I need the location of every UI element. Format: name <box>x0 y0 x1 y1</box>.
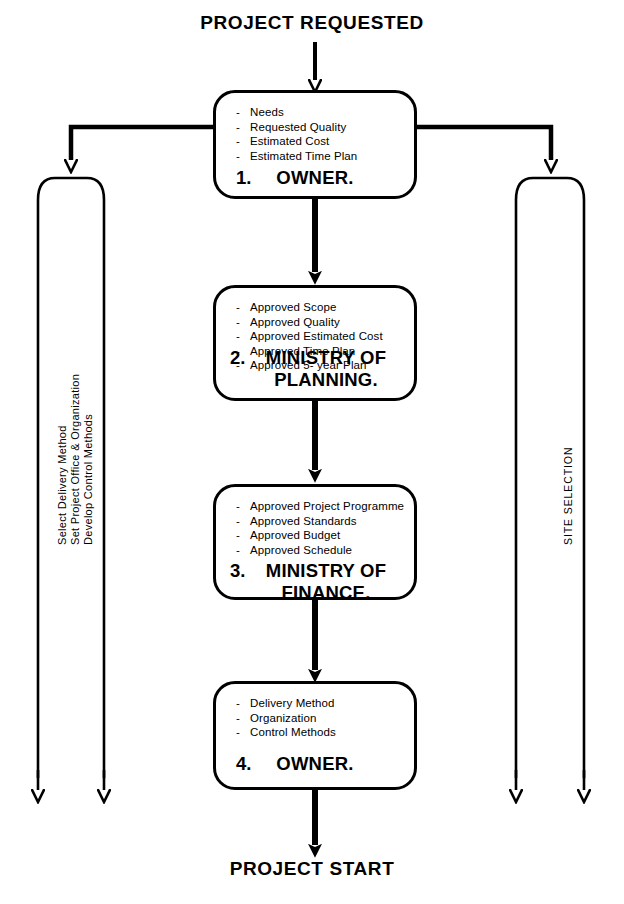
bullet-text: Needs <box>250 105 284 120</box>
bullet-marker: - <box>236 300 250 315</box>
bullet-text: Approved Schedule <box>250 543 352 558</box>
left-rail-label-select-delivery-method: Select Delivery Method <box>57 425 68 545</box>
bullet-marker: - <box>236 105 250 120</box>
node4-title-line1: OWNER. <box>216 753 414 775</box>
node3-title: MINISTRY OF FINANCE. <box>216 560 414 604</box>
bullet-text: Requested Quality <box>250 120 346 135</box>
bullet-text: Delivery Method <box>250 696 335 711</box>
node4-bullet-list: - Delivery Method - Organization - Contr… <box>236 696 406 740</box>
node3-title-line1: MINISTRY OF <box>238 560 414 582</box>
bullet-text: Approved Budget <box>250 528 340 543</box>
bullet-text: Approved Estimated Cost <box>250 329 383 344</box>
bullet-marker: - <box>236 149 250 164</box>
branch-line-left <box>71 127 213 160</box>
bullet-text: Approved Scope <box>250 300 336 315</box>
banner-project-requested: PROJECT REQUESTED <box>0 12 624 34</box>
bullet-marker: - <box>236 528 250 543</box>
list-item: - Approved Standards <box>236 514 406 529</box>
list-item: - Approved Scope <box>236 300 406 315</box>
list-item: - Approved Budget <box>236 528 406 543</box>
list-item: - Approved Schedule <box>236 543 406 558</box>
list-item: - Requested Quality <box>236 120 406 135</box>
list-item: - Delivery Method <box>236 696 406 711</box>
node3-bullet-list: - Approved Project Programme - Approved … <box>236 499 406 557</box>
flowchart-canvas: PROJECT REQUESTED PROJECT START - Needs … <box>0 0 624 904</box>
bullet-text: Approved Standards <box>250 514 357 529</box>
bullet-text: Estimated Time Plan <box>250 149 357 164</box>
node1-title-line1: OWNER. <box>216 167 414 189</box>
list-item: - Estimated Time Plan <box>236 149 406 164</box>
node3-title-line2: FINANCE. <box>238 582 414 604</box>
node-box-owner-1[interactable]: - Needs - Requested Quality - Estimated … <box>213 90 417 199</box>
bullet-marker: - <box>236 134 250 149</box>
bullet-marker: - <box>236 711 250 726</box>
bullet-text: Estimated Cost <box>250 134 329 149</box>
bullet-marker: - <box>236 543 250 558</box>
bullet-text: Approved Project Programme <box>250 499 404 514</box>
bullet-marker: - <box>236 725 250 740</box>
node2-title-line2: PLANNING. <box>238 369 414 391</box>
node1-title: OWNER. <box>216 167 414 189</box>
node2-title: MINISTRY OF PLANNING. <box>216 347 414 391</box>
list-item: - Estimated Cost <box>236 134 406 149</box>
left-rail-label-develop-control-methods: Develop Control Methods <box>83 414 94 545</box>
list-item: - Organization <box>236 711 406 726</box>
list-item: - Needs <box>236 105 406 120</box>
list-item: - Approved Project Programme <box>236 499 406 514</box>
node-box-ministry-of-finance[interactable]: - Approved Project Programme - Approved … <box>213 484 417 600</box>
bullet-marker: - <box>236 315 250 330</box>
bullet-marker: - <box>236 120 250 135</box>
banner-project-start: PROJECT START <box>0 858 624 880</box>
branch-line-right <box>417 127 551 160</box>
bullet-marker: - <box>236 499 250 514</box>
bullet-text: Control Methods <box>250 725 336 740</box>
bullet-text: Approved Quality <box>250 315 340 330</box>
list-item: - Approved Estimated Cost <box>236 329 406 344</box>
node4-title: OWNER. <box>216 753 414 775</box>
node-box-owner-4[interactable]: - Delivery Method - Organization - Contr… <box>213 681 417 790</box>
node2-title-line1: MINISTRY OF <box>238 347 414 369</box>
node1-bullet-list: - Needs - Requested Quality - Estimated … <box>236 105 406 163</box>
bullet-text: Organization <box>250 711 316 726</box>
bullet-marker: - <box>236 696 250 711</box>
left-rail-label-set-project-office: Set Project Office & Organization <box>70 374 81 545</box>
list-item: - Approved Quality <box>236 315 406 330</box>
right-rail-label-site-selection: SITE SELECTION <box>563 447 574 545</box>
bullet-marker: - <box>236 329 250 344</box>
node-box-ministry-of-planning[interactable]: - Approved Scope - Approved Quality - Ap… <box>213 285 417 401</box>
bullet-marker: - <box>236 514 250 529</box>
list-item: - Control Methods <box>236 725 406 740</box>
